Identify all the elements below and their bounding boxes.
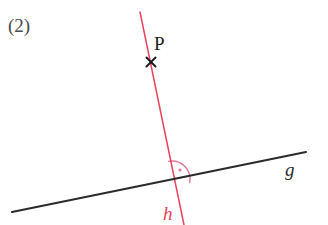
right-angle-dot	[178, 168, 181, 171]
geometry-figure: (2) P g h	[0, 0, 328, 225]
item-number-label: (2)	[8, 16, 30, 35]
line-h-label: h	[163, 204, 173, 223]
line-g-label: g	[285, 160, 295, 179]
line-g	[12, 152, 306, 212]
point-p-label: P	[154, 34, 165, 53]
